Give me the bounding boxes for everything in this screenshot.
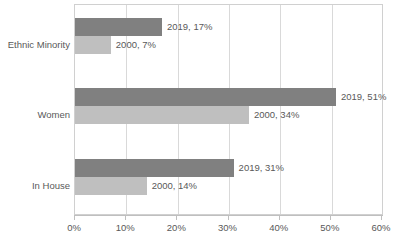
x-axis-label-30: 30% [218,222,237,233]
bar-label-2000-ethnic-minority: 2000, 7% [111,36,156,54]
x-axis-label-60: 60% [371,222,390,233]
bar-group-women: 2019, 51% 2000, 34% [75,75,382,145]
x-axis-label-50: 50% [320,222,339,233]
bar-label-2000-in-house: 2000, 14% [147,177,197,195]
category-label-ethnic-minority: Ethnic Minority [4,39,70,50]
x-axis-tick-10 [125,215,126,220]
bar-2000-in-house[interactable]: 2000, 14% [75,177,147,195]
bar-label-2019-in-house: 2019, 31% [234,159,284,177]
bar-group-in-house: 2019, 31% 2000, 14% [75,146,382,216]
bar-2000-ethnic-minority[interactable]: 2000, 7% [75,36,111,54]
x-axis-tick-30 [228,215,229,220]
bar-group-ethnic-minority: 2019, 17% 2000, 7% [75,5,382,75]
x-axis-tick-40 [279,215,280,220]
x-axis-tick-20 [176,215,177,220]
x-axis-tick-50 [330,215,331,220]
bar-label-2000-women: 2000, 34% [249,106,299,124]
x-axis-line [74,215,383,216]
x-axis-label-20: 20% [167,222,186,233]
bar-2019-ethnic-minority[interactable]: 2019, 17% [75,18,162,36]
bar-label-2019-women: 2019, 51% [336,88,386,106]
x-axis-tick-0 [74,215,75,220]
bar-2019-women[interactable]: 2019, 51% [75,88,336,106]
bar-label-2019-ethnic-minority: 2019, 17% [162,18,212,36]
category-label-in-house: In House [4,180,70,191]
bar-2019-in-house[interactable]: 2019, 31% [75,159,234,177]
x-axis-label-0: 0% [67,222,81,233]
x-axis-label-40: 40% [269,222,288,233]
bar-2000-women[interactable]: 2000, 34% [75,106,249,124]
x-axis-label-10: 10% [116,222,135,233]
plot-area: 2019, 17% 2000, 7% 2019, 51% 2000, 34% 2… [74,4,383,215]
category-label-women: Women [4,109,70,120]
x-axis-tick-60 [381,215,382,220]
bar-chart: Ethnic Minority Women In House 2019, 17%… [0,0,403,252]
